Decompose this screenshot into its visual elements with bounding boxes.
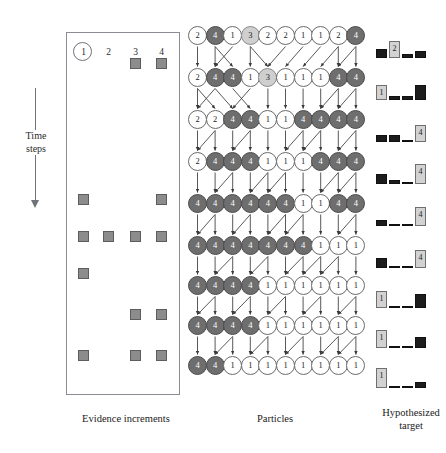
particle: 4 — [188, 356, 207, 375]
target-bar: 1 — [376, 85, 387, 100]
time-steps-axis: Time steps — [10, 88, 62, 218]
particle: 4 — [206, 236, 225, 255]
particle: 1 — [311, 68, 330, 87]
target-bar — [402, 140, 413, 142]
time-steps-label-line2: steps — [26, 143, 46, 154]
target-bar — [402, 306, 413, 308]
particle: 4 — [223, 152, 242, 171]
hypothesized-target-panel: 214444111 — [374, 26, 436, 398]
target-bar: 4 — [415, 250, 426, 268]
particle: 4 — [188, 194, 207, 213]
particle: 1 — [258, 110, 277, 129]
target-histogram: 4 — [374, 198, 432, 226]
particle: 4 — [223, 276, 242, 295]
particle: 4 — [223, 110, 242, 129]
evidence-column-header-4: 4 — [155, 46, 169, 58]
target-bar — [389, 224, 400, 226]
particle: 4 — [241, 316, 260, 335]
target-bar — [389, 306, 400, 308]
particle: 1 — [294, 68, 313, 87]
evidence-column-header-1: 1 — [77, 46, 91, 58]
caption-hypothesized-target: Hypothesized target — [378, 406, 444, 432]
particle: 1 — [294, 356, 313, 375]
caption-particles: Particles — [215, 412, 335, 425]
evidence-square — [130, 231, 141, 242]
target-bar-label: 2 — [390, 44, 399, 53]
target-bar — [402, 54, 413, 58]
particle-row: 4444441144 — [188, 194, 366, 214]
particle: 4 — [241, 152, 260, 171]
particle: 4 — [258, 236, 277, 255]
particle: 4 — [223, 316, 242, 335]
target-bar-label: 1 — [377, 371, 386, 380]
target-bar — [376, 135, 387, 142]
particle: 2 — [188, 68, 207, 87]
target-histogram: 2 — [374, 30, 432, 58]
particle: 2 — [329, 26, 348, 45]
particle: 4 — [276, 194, 295, 213]
particle: 4 — [276, 236, 295, 255]
particle: 4 — [188, 236, 207, 255]
target-bar — [376, 49, 387, 58]
particle: 4 — [311, 152, 330, 171]
target-histogram: 1 — [374, 72, 432, 100]
particle: 4 — [223, 68, 242, 87]
particle: 4 — [329, 68, 348, 87]
target-bar: 2 — [389, 41, 400, 58]
target-bar — [389, 180, 400, 184]
target-histogram: 4 — [374, 156, 432, 184]
particles-panel: 2413221124244131114422441144442444111444… — [188, 26, 366, 398]
target-bar: 4 — [415, 207, 426, 226]
particle: 4 — [206, 194, 225, 213]
target-bar — [376, 258, 387, 268]
particle: 1 — [346, 316, 365, 335]
particle: 4 — [223, 194, 242, 213]
particle: 1 — [294, 152, 313, 171]
particle-row: 4444444111 — [188, 236, 366, 256]
particle: 1 — [276, 276, 295, 295]
particle: 4 — [346, 26, 365, 45]
particle: 2 — [188, 110, 207, 129]
evidence-square — [78, 268, 89, 279]
particle: 1 — [276, 316, 295, 335]
target-bar: 4 — [415, 164, 426, 184]
evidence-column-header-3: 3 — [129, 46, 143, 58]
particle: 4 — [206, 152, 225, 171]
evidence-square — [156, 309, 167, 320]
caption-evidence-increments: Evidence increments — [46, 412, 206, 425]
time-steps-label: Time steps — [10, 130, 62, 155]
time-axis-arrowhead-icon — [31, 200, 39, 208]
particle-filter-figure: Time steps 1234 241322112424413111442244… — [0, 0, 446, 453]
particle-row: 2441311144 — [188, 68, 366, 88]
particle: 1 — [311, 276, 330, 295]
particle: 2 — [258, 26, 277, 45]
particle: 1 — [329, 316, 348, 335]
target-bar-label: 1 — [377, 333, 386, 342]
particle: 1 — [258, 276, 277, 295]
particle: 1 — [294, 316, 313, 335]
particle: 2 — [206, 110, 225, 129]
target-bar — [402, 346, 413, 348]
particle: 4 — [346, 152, 365, 171]
target-bar — [402, 386, 413, 388]
particle: 4 — [206, 316, 225, 335]
target-histogram: 4 — [374, 240, 432, 268]
particle: 1 — [346, 236, 365, 255]
particle: 1 — [311, 236, 330, 255]
particle: 1 — [276, 152, 295, 171]
particle-row: 2413221124 — [188, 26, 366, 46]
particle: 4 — [329, 152, 348, 171]
particle: 4 — [311, 110, 330, 129]
evidence-increments-panel: 1234 — [66, 32, 180, 395]
target-bar — [389, 266, 400, 268]
particle: 1 — [294, 26, 313, 45]
target-bar-label: 4 — [416, 210, 425, 219]
target-bar — [376, 220, 387, 226]
target-bar — [415, 337, 426, 348]
particle: 2 — [188, 152, 207, 171]
evidence-square — [156, 194, 167, 205]
particle: 4 — [206, 356, 225, 375]
target-bar-label: 1 — [377, 294, 386, 303]
target-bar — [402, 96, 413, 100]
particle: 4 — [241, 194, 260, 213]
